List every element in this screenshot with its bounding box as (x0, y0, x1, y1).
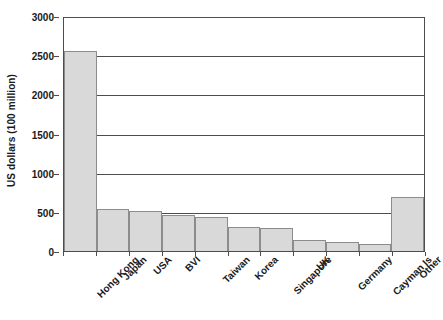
x-axis-label: Japan (121, 254, 149, 282)
x-axis-label: BVI (183, 254, 203, 274)
bar[interactable] (326, 242, 359, 251)
plot-area (63, 17, 425, 252)
y-axis-title-text: US dollars (100 million) (6, 74, 17, 187)
bar-slot (162, 18, 195, 251)
y-tick-mark (54, 95, 59, 96)
x-axis-label: USA (151, 254, 174, 277)
y-tick-label: 1000 (32, 168, 54, 179)
y-tick-mark (54, 135, 59, 136)
y-tick-mark (54, 213, 59, 214)
bar[interactable] (293, 240, 326, 251)
y-tick-label: 500 (37, 207, 54, 218)
bar-slot (228, 18, 261, 251)
x-axis-category-labels: Hong KongJapanUSABVITaiwanKoreaSingapore… (63, 254, 425, 320)
y-tick-mark (54, 252, 59, 253)
y-tick-label: 2000 (32, 90, 54, 101)
y-tick-mark (54, 17, 59, 18)
bar-slot (391, 18, 424, 251)
bar-slot (129, 18, 162, 251)
y-tick-label: 1500 (32, 129, 54, 140)
x-axis-label: Korea (252, 254, 280, 282)
bar[interactable] (228, 227, 261, 251)
bar[interactable] (391, 197, 424, 251)
bars-layer (64, 18, 424, 251)
bar[interactable] (195, 217, 228, 251)
bar[interactable] (64, 51, 97, 251)
bar-slot (64, 18, 97, 251)
y-tick-mark (54, 56, 59, 57)
bar-slot (293, 18, 326, 251)
bar[interactable] (97, 209, 130, 251)
bar-slot (326, 18, 359, 251)
bar-slot (260, 18, 293, 251)
y-axis-title: US dollars (100 million) (0, 0, 22, 260)
bar[interactable] (129, 211, 162, 251)
bar[interactable] (162, 215, 195, 251)
y-axis-tick-labels: 050010001500200025003000 (22, 0, 58, 260)
y-tick-label: 2500 (32, 51, 54, 62)
x-axis-label: Germany (355, 254, 393, 292)
bar-slot (97, 18, 130, 251)
bar-slot (359, 18, 392, 251)
y-tick-mark (54, 174, 59, 175)
y-tick-label: 3000 (32, 12, 54, 23)
bar[interactable] (260, 228, 293, 251)
bar[interactable] (359, 244, 392, 251)
x-axis-label: Taiwan (221, 254, 252, 285)
bar-slot (195, 18, 228, 251)
